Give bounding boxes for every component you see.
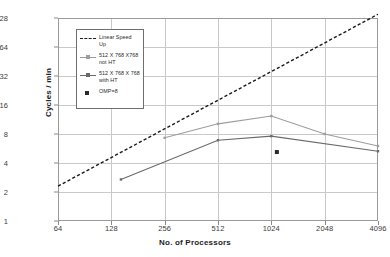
legend-item[interactable]: 512 X 768 X 768 with HT <box>80 70 140 84</box>
y-axis-title: Cycles / min <box>44 33 53 153</box>
y-tick-label: 2 <box>4 188 8 197</box>
chart-legend: Linear Speed Up512 X 768 X768 not HT512 … <box>76 29 144 109</box>
x-tick-mark <box>325 221 326 225</box>
data-point-marker <box>217 139 219 141</box>
data-point-marker <box>217 123 219 125</box>
data-point-marker <box>323 133 325 135</box>
x-tick-mark <box>271 221 272 225</box>
y-tick-label: 32 <box>0 72 8 81</box>
legend-item[interactable]: Linear Speed Up <box>80 34 140 48</box>
y-tick-label: 8 <box>4 130 8 139</box>
data-point-marker <box>377 150 379 152</box>
light-line-key <box>80 53 96 61</box>
x-tick-label: 128 <box>105 224 118 233</box>
y-tick-label: 4 <box>4 159 8 168</box>
data-point-marker <box>270 135 272 137</box>
y-tick-label: 1 <box>4 217 8 226</box>
y-tick-label: 64 <box>0 43 8 52</box>
x-tick-label: 512 <box>212 224 225 233</box>
data-point-marker <box>163 137 165 139</box>
legend-item[interactable]: OMP=8 <box>80 88 140 97</box>
legend-item-label: 512 X 768 X768 not HT <box>99 52 138 66</box>
data-point-marker <box>275 150 279 154</box>
data-series-line <box>165 116 378 146</box>
point-marker-icon <box>86 55 90 59</box>
legend-item-label: Linear Speed Up <box>99 34 140 48</box>
x-tick-mark <box>218 221 219 225</box>
y-tick-label: 16 <box>0 101 8 110</box>
y-tick-label: 128 <box>0 14 8 23</box>
speedup-chart: Cycles / min No. of Processors 124816326… <box>0 0 390 257</box>
x-axis-title: No. of Processors <box>0 238 390 247</box>
x-tick-label: 64 <box>54 224 63 233</box>
legend-item[interactable]: 512 X 768 X768 not HT <box>80 52 140 66</box>
x-tick-mark <box>165 221 166 225</box>
x-tick-mark <box>111 221 112 225</box>
x-tick-label: 4096 <box>369 224 386 233</box>
square-marker-key <box>80 89 96 97</box>
x-tick-label: 1024 <box>263 224 280 233</box>
data-series-line <box>121 136 378 179</box>
dashed-line-key <box>80 35 96 43</box>
data-point-marker <box>377 145 379 147</box>
legend-item-label: 512 X 768 X 768 with HT <box>99 70 140 84</box>
square-marker-icon <box>85 91 89 95</box>
legend-item-label: OMP=8 <box>99 88 118 95</box>
dark-line-key <box>80 71 96 79</box>
dashed-line-icon <box>80 38 96 39</box>
data-point-marker <box>270 115 272 117</box>
x-tick-label: 256 <box>158 224 171 233</box>
x-tick-mark <box>58 221 59 225</box>
x-tick-mark <box>378 221 379 225</box>
point-marker-icon <box>86 73 90 77</box>
x-tick-label: 2048 <box>316 224 333 233</box>
data-point-marker <box>120 178 122 180</box>
